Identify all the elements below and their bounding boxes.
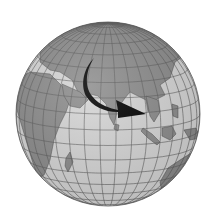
globe-illustration	[0, 0, 211, 222]
globe-shading	[16, 22, 200, 206]
